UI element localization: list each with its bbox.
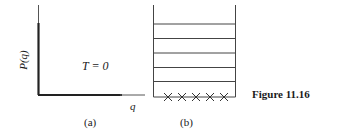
panel-b-levels bbox=[154, 5, 236, 97]
panel-b-label: (b) bbox=[180, 116, 193, 128]
y-axis-label: P(q) bbox=[17, 43, 29, 77]
temperature-annotation: T = 0 bbox=[82, 59, 109, 74]
x-axis-label: q bbox=[130, 100, 136, 112]
panel-a-label: (a) bbox=[84, 116, 96, 128]
panel-a-axes bbox=[38, 5, 145, 95]
figure-drawing bbox=[0, 0, 339, 136]
figure-caption: Figure 11.16 bbox=[252, 88, 310, 100]
